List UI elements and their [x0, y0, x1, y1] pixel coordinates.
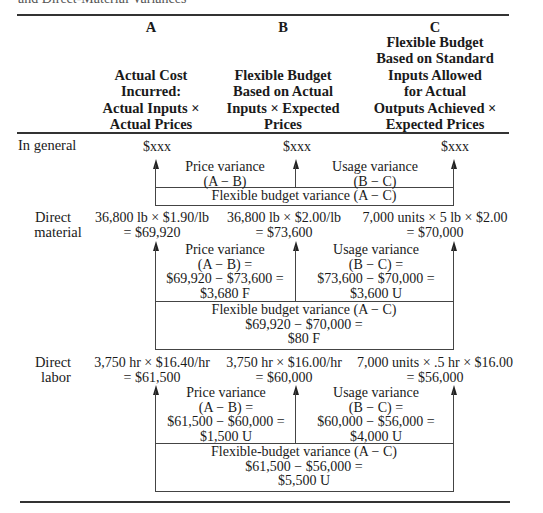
variance-label: Price variance: [167, 386, 284, 401]
row-label-line: Direct: [18, 210, 88, 225]
variance-computation: $69,920 − $70,000 =: [212, 318, 397, 333]
variance-computation: $60,000 − $56,000 =: [317, 415, 434, 430]
variance-computation: $61,500 − $56,000 =: [211, 460, 397, 475]
figure-caption: and Direct-Material Variances: [18, 0, 186, 7]
header-line: Expected Prices: [374, 116, 497, 132]
variance-label: Flexible budget variance (A − C): [212, 303, 397, 318]
bottom-rule: [20, 501, 510, 503]
cell-line: = $73,600: [227, 225, 341, 240]
variance-label: Flexible-budget variance (A − C): [211, 445, 397, 460]
labor-a-value: 3,750 hr × $16.40/hr = $61,500: [94, 355, 210, 385]
variance-result: $3,680 F: [166, 287, 283, 302]
material-price-variance: Price variance (A − B) = $69,920 − $73,6…: [166, 243, 283, 301]
variance-box-bottom: [155, 349, 454, 350]
row-label-direct-material: Direct material: [18, 210, 88, 240]
variance-formula: (A − B) =: [167, 401, 284, 416]
header-line: Inputs × Expected: [226, 100, 339, 116]
variance-label: Flexible budget variance (A − C): [212, 189, 397, 204]
variance-result: $4,000 U: [317, 430, 434, 445]
variance-result: $5,500 U: [211, 474, 397, 489]
connector-line: [453, 165, 454, 206]
cell-line: 3,750 hr × $16.40/hr: [94, 355, 210, 370]
connector-line: [453, 247, 454, 349]
variance-label: Price variance: [166, 243, 283, 258]
connector-line: [453, 391, 454, 491]
header-line: Prices: [226, 116, 339, 132]
labor-usage-variance: Usage variance (B − C) = $60,000 − $56,0…: [317, 386, 434, 444]
labor-price-variance: Price variance (A − B) = $61,500 − $60,0…: [167, 386, 284, 444]
variance-computation: $73,600 − $70,000 =: [317, 272, 434, 287]
connector-line: [155, 165, 156, 206]
header-line: Incurred:: [103, 83, 200, 99]
row-label-line: material: [18, 225, 88, 240]
header-line: Based on Standard: [374, 50, 497, 66]
general-usage-variance: Usage variance (B − C): [332, 160, 418, 189]
header-line: Actual Cost: [103, 67, 200, 83]
header-line: Outputs Achieved ×: [374, 100, 497, 116]
variance-label: Usage variance: [317, 243, 434, 258]
header-line: Actual Inputs ×: [103, 100, 200, 116]
variance-formula: (B − C) =: [317, 401, 434, 416]
cell-line: = $61,500: [94, 370, 210, 385]
general-flexible-variance: Flexible budget variance (A − C): [212, 189, 397, 204]
connector-line: [155, 391, 156, 491]
header-line: Inputs Allowed: [374, 67, 497, 83]
material-a-value: 36,800 lb × $1.90/lb = $69,920: [95, 210, 209, 240]
general-a-value: $xxx: [143, 139, 171, 154]
row-label-direct-labor: Direct labor: [18, 355, 88, 385]
general-c-value: $xxx: [441, 139, 469, 154]
variance-result: $1,500 U: [167, 430, 284, 445]
variance-formula: (B − C) =: [317, 258, 434, 273]
cell-line: 36,800 lb × $2.00/lb: [227, 210, 341, 225]
cell-line: = $56,000: [357, 370, 513, 385]
column-a-header: Actual Cost Incurred: Actual Inputs × Ac…: [103, 67, 200, 133]
variance-formula: (A − B) =: [166, 258, 283, 273]
variance-computation: $69,920 − $73,600 =: [166, 272, 283, 287]
general-b-value: $xxx: [283, 139, 311, 154]
variance-result: $80 F: [212, 332, 397, 347]
row-label-line: Direct: [18, 355, 88, 370]
variance-result: $3,600 U: [317, 287, 434, 302]
variance-label: Usage variance: [332, 160, 418, 175]
variance-computation: $61,500 − $60,000 =: [167, 415, 284, 430]
material-c-value: 7,000 units × 5 lb × $2.00 = $70,000: [363, 210, 508, 240]
variance-formula: (B − C): [332, 175, 418, 190]
variance-box-bottom: [155, 491, 454, 492]
material-flexible-variance: Flexible budget variance (A − C) $69,920…: [212, 303, 397, 347]
header-line: Based on Actual: [226, 83, 339, 99]
column-a-letter: A: [146, 19, 156, 36]
connector-line: [295, 165, 296, 187]
material-b-value: 36,800 lb × $2.00/lb = $73,600: [227, 210, 341, 240]
cell-line: 36,800 lb × $1.90/lb: [95, 210, 209, 225]
connector-line: [295, 247, 296, 301]
labor-c-value: 7,000 units × .5 hr × $16.00 = $56,000: [357, 355, 513, 385]
header-line: for Actual: [374, 83, 497, 99]
cell-line: 3,750 hr × $16.00/hr: [226, 355, 342, 370]
labor-b-value: 3,750 hr × $16.00/hr = $60,000: [226, 355, 342, 385]
column-b-header: Flexible Budget Based on Actual Inputs ×…: [226, 67, 339, 133]
variance-box-bottom: [155, 205, 454, 206]
connector-line: [155, 247, 156, 349]
general-price-variance: Price variance (A − B): [185, 160, 265, 189]
cell-line: 7,000 units × .5 hr × $16.00: [357, 355, 513, 370]
row-label-line: labor: [18, 370, 88, 385]
row-label-in-general: In general: [18, 138, 76, 153]
labor-flexible-variance: Flexible-budget variance (A − C) $61,500…: [211, 445, 397, 489]
header-line: Flexible Budget: [374, 34, 497, 50]
cell-line: = $69,920: [95, 225, 209, 240]
cell-line: = $70,000: [363, 225, 508, 240]
material-usage-variance: Usage variance (B − C) = $73,600 − $70,0…: [317, 243, 434, 301]
top-rule: [17, 14, 509, 16]
header-line: Actual Prices: [103, 116, 200, 132]
connector-line: [295, 391, 296, 443]
variance-label: Price variance: [185, 160, 265, 175]
cell-line: = $60,000: [226, 370, 342, 385]
column-b-letter: B: [278, 19, 288, 36]
variance-label: Usage variance: [317, 386, 434, 401]
column-c-header: Flexible Budget Based on Standard Inputs…: [374, 34, 497, 132]
header-line: Flexible Budget: [226, 67, 339, 83]
cell-line: 7,000 units × 5 lb × $2.00: [363, 210, 508, 225]
variance-formula: (A − B): [185, 175, 265, 190]
